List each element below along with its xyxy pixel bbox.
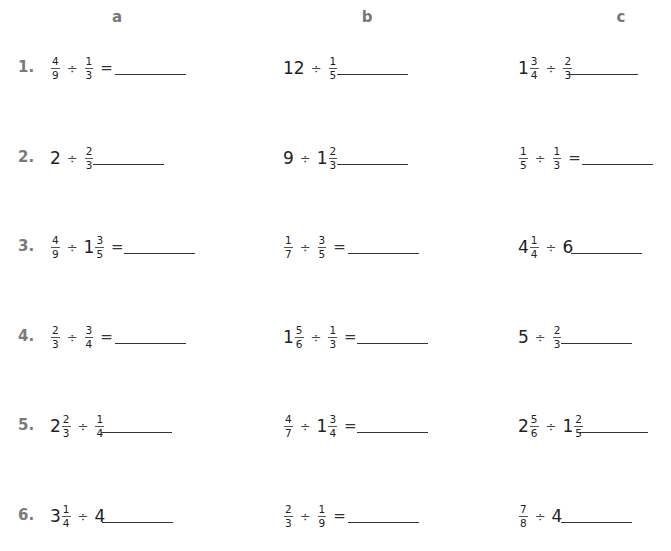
answer-blank[interactable] xyxy=(348,522,419,523)
numerator: 1 xyxy=(95,414,104,427)
denominator: 9 xyxy=(52,69,59,81)
answer-blank[interactable] xyxy=(561,522,632,523)
denominator: 4 xyxy=(531,248,538,260)
fraction: 34 xyxy=(530,56,539,80)
whole-number: 1 xyxy=(562,418,573,435)
fraction: 35 xyxy=(95,235,104,259)
answer-blank[interactable] xyxy=(571,253,642,254)
answer-blank[interactable] xyxy=(582,164,653,165)
denominator: 3 xyxy=(285,517,292,529)
fraction: 15 xyxy=(519,146,528,170)
numerator: 1 xyxy=(530,235,539,248)
numerator: 3 xyxy=(318,235,327,248)
numerator: 2 xyxy=(62,414,71,427)
divide-symbol: ÷ xyxy=(67,61,78,76)
fraction: 14 xyxy=(95,414,104,438)
whole-number: 1 xyxy=(283,329,294,346)
answer-blank[interactable] xyxy=(337,164,408,165)
denominator: 3 xyxy=(554,338,561,350)
problem-number: 6. xyxy=(18,506,34,524)
whole-number: 2 xyxy=(50,150,61,167)
division-expression: 414÷6 xyxy=(518,235,573,259)
numerator: 1 xyxy=(329,56,338,69)
fraction: 35 xyxy=(318,235,327,259)
problem-1c: 134÷23 xyxy=(518,48,573,88)
divide-symbol: ÷ xyxy=(535,330,546,345)
fraction: 15 xyxy=(329,56,338,80)
column-header-a: a xyxy=(102,8,132,26)
answer-blank[interactable] xyxy=(93,164,164,165)
equals-sign: = xyxy=(100,328,113,346)
numerator: 3 xyxy=(328,414,337,427)
divide-symbol: ÷ xyxy=(311,61,322,76)
division-expression: 223÷14 xyxy=(50,414,105,438)
division-expression: 134÷23 xyxy=(518,56,573,80)
answer-blank[interactable] xyxy=(337,74,408,75)
fraction: 23 xyxy=(553,325,562,349)
divide-symbol: ÷ xyxy=(300,509,311,524)
answer-blank[interactable] xyxy=(357,432,428,433)
problem-number: 5. xyxy=(18,416,34,434)
denominator: 3 xyxy=(86,69,93,81)
fraction: 13 xyxy=(328,325,337,349)
numerator: 1 xyxy=(62,504,71,517)
numerator: 2 xyxy=(553,325,562,338)
divide-symbol: ÷ xyxy=(300,419,311,434)
whole-number: 1 xyxy=(518,60,529,77)
whole-number: 2 xyxy=(50,418,61,435)
answer-blank[interactable] xyxy=(115,74,186,75)
numerator: 2 xyxy=(574,414,583,427)
denominator: 5 xyxy=(96,248,103,260)
answer-blank[interactable] xyxy=(567,74,638,75)
denominator: 4 xyxy=(86,338,93,350)
denominator: 3 xyxy=(52,338,59,350)
equals-sign: = xyxy=(111,238,124,256)
fraction: 23 xyxy=(563,56,572,80)
numerator: 7 xyxy=(519,504,528,517)
answer-blank[interactable] xyxy=(577,432,648,433)
problem-3a: 49÷135= xyxy=(50,227,124,267)
problem-row-1: 1.49÷13=12÷15134÷23 xyxy=(0,48,671,88)
answer-blank[interactable] xyxy=(561,343,632,344)
equals-sign: = xyxy=(568,149,581,167)
whole-number: 4 xyxy=(518,239,529,256)
problem-6c: 78÷4 xyxy=(518,496,562,536)
whole-number: 5 xyxy=(518,329,529,346)
division-expression: 9÷123 xyxy=(283,146,338,170)
problem-1b: 12÷15 xyxy=(283,48,338,88)
denominator: 3 xyxy=(330,159,337,171)
fraction: 78 xyxy=(519,504,528,528)
denominator: 6 xyxy=(296,338,303,350)
fraction: 23 xyxy=(284,504,293,528)
fraction: 17 xyxy=(284,235,293,259)
denominator: 9 xyxy=(52,248,59,260)
divide-symbol: ÷ xyxy=(67,151,78,166)
equals-sign: = xyxy=(333,238,346,256)
divide-symbol: ÷ xyxy=(535,151,546,166)
denominator: 3 xyxy=(63,427,70,439)
column-header-c: c xyxy=(606,8,636,26)
answer-blank[interactable] xyxy=(115,343,186,344)
divide-symbol: ÷ xyxy=(78,419,89,434)
answer-blank[interactable] xyxy=(357,343,428,344)
problem-4b: 156÷13= xyxy=(283,317,357,357)
denominator: 3 xyxy=(554,159,561,171)
divide-symbol: ÷ xyxy=(546,61,557,76)
divide-symbol: ÷ xyxy=(78,509,89,524)
equals-sign: = xyxy=(344,328,357,346)
fraction: 56 xyxy=(295,325,304,349)
answer-blank[interactable] xyxy=(348,253,419,254)
fraction: 34 xyxy=(85,325,94,349)
division-expression: 5÷23 xyxy=(518,325,562,349)
answer-blank[interactable] xyxy=(101,432,172,433)
numerator: 2 xyxy=(284,504,293,517)
answer-blank[interactable] xyxy=(102,522,173,523)
numerator: 1 xyxy=(284,235,293,248)
whole-number: 1 xyxy=(317,418,328,435)
denominator: 9 xyxy=(319,517,326,529)
denominator: 5 xyxy=(330,69,337,81)
answer-blank[interactable] xyxy=(124,253,195,254)
numerator: 2 xyxy=(51,325,60,338)
denominator: 5 xyxy=(319,248,326,260)
problem-2c: 15÷13= xyxy=(518,138,581,178)
